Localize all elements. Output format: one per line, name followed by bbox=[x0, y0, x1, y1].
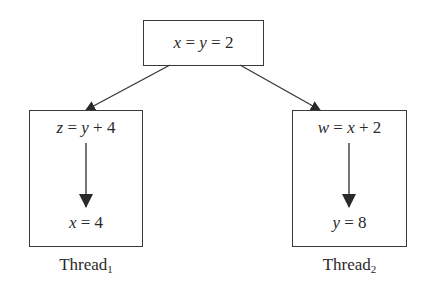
thread-label-subscript: 1 bbox=[107, 263, 113, 275]
root-expression: x = y = 2 bbox=[143, 34, 264, 51]
expr-part: = bbox=[181, 33, 199, 52]
expr-part: w bbox=[318, 118, 329, 137]
expr-part: + bbox=[355, 118, 373, 137]
expr-part: = bbox=[207, 33, 225, 52]
thread2-statement-2: y = 8 bbox=[292, 214, 407, 231]
expr-part: y bbox=[199, 33, 207, 52]
edge-root-to-thread1 bbox=[86, 65, 170, 110]
expr-part: = bbox=[329, 118, 347, 137]
thread1-statement-2: x = 4 bbox=[29, 214, 143, 231]
expr-part: 2 bbox=[225, 33, 234, 52]
expr-part: x bbox=[347, 118, 355, 137]
expr-part: 2 bbox=[373, 118, 382, 137]
expr-part: 4 bbox=[95, 213, 104, 232]
thread-label-text: Thread bbox=[59, 255, 107, 274]
expr-part: 8 bbox=[358, 213, 367, 232]
thread1-statement-1: z = y + 4 bbox=[29, 119, 143, 136]
thread2-label: Thread2 bbox=[292, 256, 407, 273]
expr-part: = bbox=[340, 213, 358, 232]
thread1-label: Thread1 bbox=[29, 256, 143, 273]
expr-part: y bbox=[332, 213, 340, 232]
thread-label-subscript: 2 bbox=[371, 263, 377, 275]
expr-part: = bbox=[76, 213, 94, 232]
expr-part: 4 bbox=[107, 118, 116, 137]
thread2-statement-1: w = x + 2 bbox=[292, 119, 407, 136]
expr-part: + bbox=[89, 118, 107, 137]
thread-fork-diagram: x = y = 2 z = y + 4 x = 4 Thread1 w = x … bbox=[0, 0, 424, 289]
edge-root-to-thread2 bbox=[240, 65, 320, 110]
expr-part: = bbox=[63, 118, 81, 137]
thread-label-text: Thread bbox=[323, 255, 371, 274]
expr-part: y bbox=[81, 118, 89, 137]
